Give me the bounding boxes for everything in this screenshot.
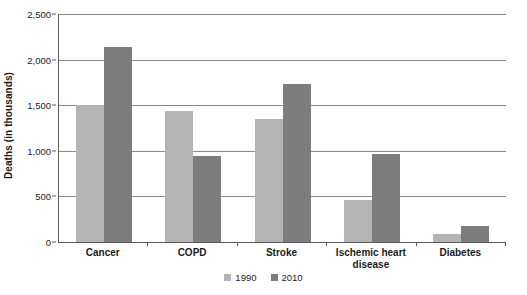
legend-swatch-icon [224, 274, 231, 281]
x-category-label: Cancer [58, 247, 147, 259]
y-tick-label: 0 [46, 237, 51, 248]
bar-group [344, 14, 400, 242]
y-tick-mark [52, 196, 56, 197]
bar-group [433, 14, 489, 242]
x-category-label: COPD [147, 247, 236, 259]
x-tick-mark [416, 242, 417, 246]
x-tick-mark [147, 242, 148, 246]
y-axis-title-text: Deaths (in thousands) [4, 71, 15, 178]
bar-diabetes-1990[interactable] [433, 234, 461, 242]
legend-label: 2010 [282, 272, 303, 283]
plot-area [58, 14, 506, 243]
y-tick-mark [52, 105, 56, 106]
y-tick-mark [52, 242, 56, 243]
bar-cancer-1990[interactable] [76, 105, 104, 242]
x-category-label: Ischemic heart disease [326, 247, 415, 270]
bar-stroke-1990[interactable] [255, 119, 283, 242]
bar-cancer-2010[interactable] [104, 47, 132, 242]
bar-group [76, 14, 132, 242]
bar-copd-1990[interactable] [165, 111, 193, 242]
chart-legend: 19902010 [0, 272, 527, 283]
x-tick-mark [326, 242, 327, 246]
bar-group [255, 14, 311, 242]
bar-copd-2010[interactable] [193, 156, 221, 242]
y-axis-tick-labels: 05001,0001,5002,0002,500 [16, 14, 56, 242]
bar-ischemic-heart-disease-2010[interactable] [372, 154, 400, 242]
x-tick-mark [505, 242, 506, 246]
y-tick-label: 500 [35, 191, 51, 202]
x-category-label: Diabetes [416, 247, 505, 259]
bar-ischemic-heart-disease-1990[interactable] [344, 200, 372, 242]
bar-chart-figure: Deaths (in thousands) 05001,0001,5002,00… [0, 0, 527, 295]
bar-stroke-2010[interactable] [283, 84, 311, 242]
y-tick-mark [52, 150, 56, 151]
y-tick-mark [52, 14, 56, 15]
bars-layer [59, 14, 506, 242]
y-tick-label: 2,000 [27, 54, 51, 65]
y-tick-label: 1,500 [27, 100, 51, 111]
y-tick-label: 2,500 [27, 9, 51, 20]
bar-diabetes-2010[interactable] [461, 226, 489, 242]
bar-group [165, 14, 221, 242]
legend-item-1990[interactable]: 1990 [224, 272, 256, 283]
legend-item-2010[interactable]: 2010 [271, 272, 303, 283]
y-tick-label: 1,000 [27, 145, 51, 156]
legend-label: 1990 [235, 272, 256, 283]
x-tick-mark [237, 242, 238, 246]
y-tick-mark [52, 59, 56, 60]
x-category-label: Stroke [237, 247, 326, 259]
legend-swatch-icon [271, 274, 278, 281]
